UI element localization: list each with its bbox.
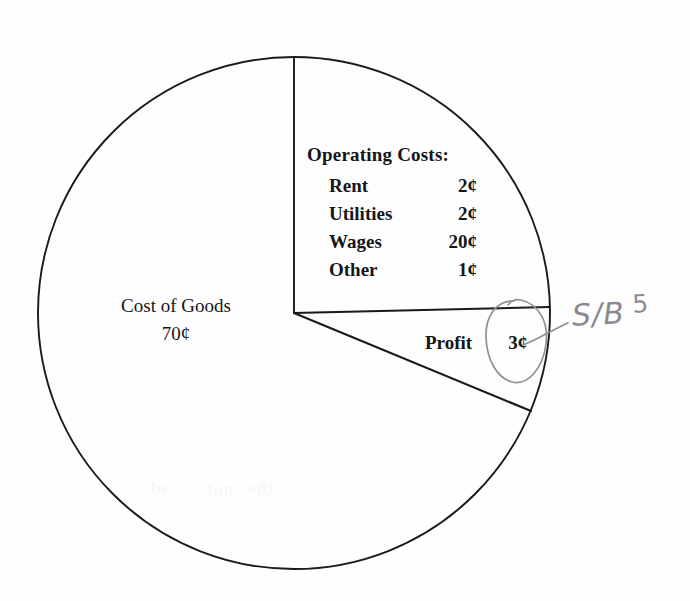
operating-costs-row: Wages 20¢ [307, 228, 477, 256]
slice-label-profit: Profit 3¢ [425, 332, 527, 354]
operating-costs-row: Other 1¢ [307, 256, 477, 284]
operating-costs-row-value: 2¢ [435, 172, 477, 200]
operating-costs-row-value: 1¢ [435, 256, 477, 284]
operating-costs-row-label: Wages [329, 228, 435, 256]
pie-radius-right [294, 307, 550, 313]
handwritten-corrected-value: 5 [632, 289, 650, 319]
operating-costs-row-value: 20¢ [435, 228, 477, 256]
scanned-page: of not the Cost of Goods 70¢ Operating C… [0, 0, 690, 601]
cost-of-goods-name: Cost of Goods [96, 292, 256, 320]
profit-value: 3¢ [508, 332, 527, 354]
slice-label-cost-of-goods: Cost of Goods 70¢ [96, 292, 256, 347]
operating-costs-title: Operating Costs: [307, 144, 477, 166]
operating-costs-row: Utilities 2¢ [307, 200, 477, 228]
operating-costs-row: Rent 2¢ [307, 172, 477, 200]
operating-costs-row-label: Utilities [329, 200, 435, 228]
handwritten-should-be: S/B [571, 295, 625, 333]
profit-label: Profit [425, 332, 472, 354]
operating-costs-row-label: Rent [329, 172, 435, 200]
handwritten-correction-note: S/B5 [571, 294, 642, 333]
operating-costs-row-label: Other [329, 256, 435, 284]
pie-radius-profit-lower [294, 313, 531, 411]
slice-label-operating-costs: Operating Costs: Rent 2¢ Utilities 2¢ Wa… [307, 144, 477, 284]
operating-costs-row-value: 2¢ [435, 200, 477, 228]
cost-of-goods-value: 70¢ [96, 320, 256, 348]
